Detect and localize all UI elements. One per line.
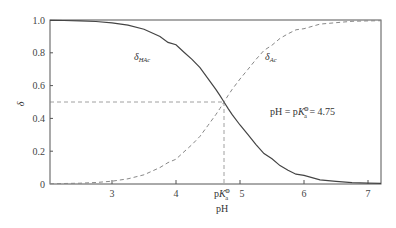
delta-hac-label: δHAc [134,51,150,63]
x-tick-5: 5 [240,188,245,199]
pka-equation-annotation: pH = pK⊖a = 4.75 [270,105,335,119]
y-tick-0.2: 0.2 [33,146,46,157]
x-axis-title: pH [216,203,228,214]
x-tick-3: 3 [110,188,115,199]
y-axis-title: δ [15,101,26,106]
x-tick-4: 4 [174,188,179,199]
y-tick-1.0: 1.0 [33,15,46,26]
x-tick-6: 6 [302,188,307,199]
x-axis-tick-labels: 3 4 5 6 7 [110,188,371,199]
y-tick-0.4: 0.4 [33,113,46,124]
y-tick-0.6: 0.6 [33,80,46,91]
y-tick-0.8: 0.8 [33,47,46,58]
delta-ac-label: δAc [265,51,277,63]
x-tick-7: 7 [366,188,371,199]
distribution-chart: 0 0.2 0.4 0.6 0.8 1.0 3 4 5 6 7 pK⊖a pH … [0,0,396,228]
y-axis-tick-labels: 0 0.2 0.4 0.6 0.8 1.0 [33,15,46,190]
y-tick-0: 0 [40,179,45,190]
pka-axis-label: pK⊖a [214,187,230,201]
